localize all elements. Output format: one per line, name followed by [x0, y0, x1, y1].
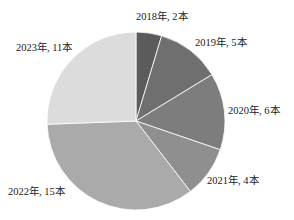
- label-2023: 2023年, 11本: [16, 42, 72, 54]
- label-2019: 2019年, 5本: [195, 37, 247, 49]
- label-2021: 2021年, 4本: [207, 175, 259, 187]
- label-2020: 2020年, 6本: [228, 105, 280, 117]
- pie-slices: [47, 32, 225, 210]
- label-2018: 2018年, 2本: [136, 11, 188, 23]
- label-2022: 2022年, 15本: [8, 186, 65, 198]
